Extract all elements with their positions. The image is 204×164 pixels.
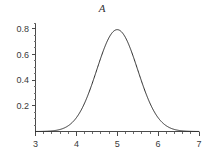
y-tick-label-2: 0.4 xyxy=(16,75,29,85)
gaussian-curve xyxy=(36,30,200,132)
y-tick-label-3: 0.2 xyxy=(16,101,29,111)
chart-figure: A xyxy=(0,0,204,164)
x-tick-label-0: 3 xyxy=(33,139,38,149)
plot-area: 0.8 0.6 0.4 0.2 3 4 5 6 7 xyxy=(0,0,204,164)
x-tick-label-2: 5 xyxy=(115,139,120,149)
y-tick-label-0: 0.8 xyxy=(16,24,29,34)
x-tick-label-4: 7 xyxy=(196,139,201,149)
x-tick-label-1: 4 xyxy=(74,139,79,149)
x-tick-label-3: 6 xyxy=(156,139,161,149)
y-tick-label-1: 0.6 xyxy=(16,50,29,60)
